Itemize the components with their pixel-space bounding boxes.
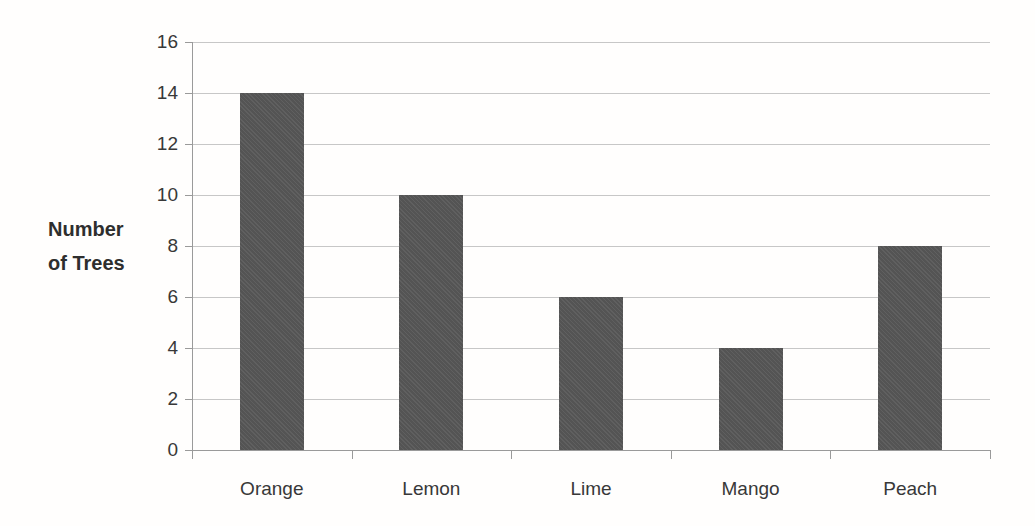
y-axis-tick-10 (185, 195, 192, 196)
y-tick-label-10: 10 (110, 184, 178, 206)
bar-lemon (399, 195, 463, 450)
y-tick-label-0: 0 (110, 439, 178, 461)
gridline-12 (192, 144, 990, 145)
gridline-16 (192, 42, 990, 43)
x-tick-label-orange: Orange (202, 478, 342, 500)
gridline-14 (192, 93, 990, 94)
x-axis-tick-3 (671, 450, 672, 459)
y-tick-label-6: 6 (110, 286, 178, 308)
gridline-10 (192, 195, 990, 196)
x-tick-label-mango: Mango (681, 478, 821, 500)
y-axis-tick-6 (185, 297, 192, 298)
y-axis-tick-4 (185, 348, 192, 349)
x-axis-tick-5 (990, 450, 991, 459)
y-axis-line (192, 42, 193, 458)
y-tick-label-16: 16 (110, 31, 178, 53)
x-axis-line (192, 450, 990, 451)
y-tick-label-2: 2 (110, 388, 178, 410)
y-axis-tick-0 (185, 450, 192, 451)
bar-peach (878, 246, 942, 450)
y-tick-label-4: 4 (110, 337, 178, 359)
y-axis-tick-16 (185, 42, 192, 43)
y-tick-label-12: 12 (110, 133, 178, 155)
y-axis-tick-14 (185, 93, 192, 94)
y-axis-tick-8 (185, 246, 192, 247)
bar-mango (719, 348, 783, 450)
bar-lime (559, 297, 623, 450)
x-tick-label-peach: Peach (840, 478, 980, 500)
x-axis-tick-4 (830, 450, 831, 459)
bar-chart: Number of Trees 0246810121416OrangeLemon… (0, 0, 1035, 526)
y-tick-label-14: 14 (110, 82, 178, 104)
y-axis-tick-2 (185, 399, 192, 400)
y-tick-label-8: 8 (110, 235, 178, 257)
x-tick-label-lime: Lime (521, 478, 661, 500)
gridline-8 (192, 246, 990, 247)
x-tick-label-lemon: Lemon (361, 478, 501, 500)
x-axis-tick-0 (192, 450, 193, 459)
y-axis-tick-12 (185, 144, 192, 145)
bar-orange (240, 93, 304, 450)
x-axis-tick-2 (511, 450, 512, 459)
x-axis-tick-1 (352, 450, 353, 459)
